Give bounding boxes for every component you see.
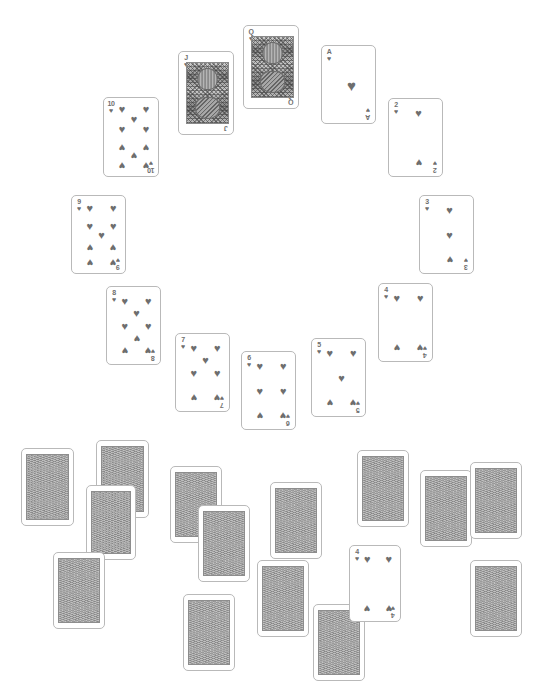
suit-heart-icon: ♥ <box>119 141 126 152</box>
fan-card-four-hearts-fan[interactable]: 4♥4♥♥♥♥♥ <box>378 283 433 362</box>
fan-card-ten-hearts[interactable]: 10♥10♥♥♥♥♥♥♥♥♥♥♥ <box>103 97 159 177</box>
suit-heart-icon: ♥ <box>446 229 453 240</box>
card-back-pattern <box>362 456 404 521</box>
suit-heart-icon: ♥ <box>110 241 117 252</box>
suit-heart-icon: ♥ <box>327 397 334 408</box>
fan-card-five-hearts[interactable]: 5♥5♥♥♥♥♥♥ <box>311 338 366 417</box>
suit-heart-icon: ♥ <box>87 221 94 232</box>
suit-heart-icon: ♥ <box>191 367 198 378</box>
suit-heart-icon: ♥ <box>327 347 334 358</box>
fan-card-three-hearts[interactable]: 3♥3♥♥♥♥ <box>419 195 474 274</box>
card-pip-area: ♥♥ <box>399 103 438 172</box>
face-down-card[interactable] <box>270 482 322 559</box>
suit-heart-icon: ♥ <box>87 241 94 252</box>
court-card-artwork <box>186 62 229 124</box>
card-pip-area: ♥♥♥♥♥ <box>322 343 361 412</box>
suit-heart-icon: ♥ <box>364 602 371 613</box>
suit-heart-icon: ♥ <box>122 295 129 306</box>
suit-heart-icon: ♥ <box>394 342 401 353</box>
card-rank-label: Q <box>285 99 297 106</box>
suit-heart-icon: ♥ <box>347 77 356 92</box>
face-down-card[interactable] <box>198 505 250 582</box>
suit-heart-icon: ♥ <box>364 554 371 565</box>
suit-heart-icon: ♥ <box>386 554 393 565</box>
suit-heart-icon: ♥ <box>417 292 424 303</box>
card-back-pattern <box>475 468 517 533</box>
court-card-artwork <box>251 36 294 98</box>
face-down-card[interactable] <box>357 450 409 527</box>
suit-heart-icon: ♥ <box>133 308 140 319</box>
suit-heart-icon: ♥ <box>87 257 94 268</box>
fan-card-two-hearts[interactable]: 2♥2♥♥♥ <box>388 98 443 177</box>
card-rank-label: J <box>180 54 192 61</box>
fan-card-ace-hearts[interactable]: A♥A♥♥ <box>321 45 376 124</box>
fan-card-eight-hearts[interactable]: 8♥8♥♥♥♥♥♥♥♥♥ <box>106 286 161 365</box>
suit-heart-icon: ♥ <box>191 342 198 353</box>
suit-heart-icon: ♥ <box>394 292 401 303</box>
suit-heart-icon: ♥ <box>214 392 221 403</box>
card-pip-area: ♥♥♥♥♥♥ <box>252 356 291 425</box>
card-pip-area: ♥♥♥♥♥♥♥♥♥ <box>82 200 121 269</box>
face-down-card[interactable] <box>470 560 522 637</box>
card-back-pattern <box>188 600 230 665</box>
suit-heart-icon: ♥ <box>386 602 393 613</box>
suit-heart-icon: ♥ <box>143 160 150 171</box>
suit-heart-icon: ♥ <box>145 320 152 331</box>
card-pip-area: ♥♥♥♥♥♥♥ <box>186 338 225 407</box>
suit-heart-icon: ♥ <box>110 221 117 232</box>
suit-heart-icon: ♥ <box>122 320 129 331</box>
face-up-card-four-hearts-loose[interactable]: 4♥4♥♥♥♥♥ <box>349 545 401 622</box>
suit-heart-icon: ♥ <box>131 113 138 124</box>
face-down-card[interactable] <box>53 552 105 629</box>
suit-heart-icon: ♥ <box>119 104 126 115</box>
suit-heart-icon: ♥ <box>143 141 150 152</box>
suit-heart-icon: ♥ <box>122 345 129 356</box>
suit-heart-icon: ♥ <box>214 367 221 378</box>
suit-heart-icon: ♥ <box>446 204 453 215</box>
face-down-card[interactable] <box>183 594 235 671</box>
face-down-card[interactable] <box>470 462 522 539</box>
suit-heart-icon: ♥ <box>257 410 264 421</box>
card-back-pattern <box>58 558 100 623</box>
fan-card-jack-hearts[interactable]: J♥J♥ <box>178 51 234 135</box>
suit-heart-icon: ♥ <box>415 157 422 168</box>
suit-heart-icon: ♥ <box>280 385 287 396</box>
card-back-pattern <box>475 566 517 631</box>
suit-heart-icon: ♥ <box>119 160 126 171</box>
card-back-pattern <box>275 488 317 553</box>
suit-heart-icon: ♥ <box>280 360 287 371</box>
fan-card-seven-hearts[interactable]: 7♥7♥♥♥♥♥♥♥♥ <box>175 333 230 412</box>
card-pip-area: ♥♥♥♥♥♥♥♥ <box>117 291 156 360</box>
suit-heart-icon: ♥ <box>191 392 198 403</box>
suit-heart-icon: ♥ <box>202 355 209 366</box>
card-back-pattern <box>262 566 304 631</box>
fan-card-queen-hearts[interactable]: Q♥Q♥ <box>243 25 299 109</box>
face-down-card[interactable] <box>86 485 136 560</box>
card-back-pattern <box>26 454 69 520</box>
suit-heart-icon: ♥ <box>415 107 422 118</box>
suit-heart-icon: ♥ <box>145 345 152 356</box>
suit-heart-icon: ♥ <box>131 150 138 161</box>
card-back-pattern <box>91 491 131 554</box>
face-down-card[interactable] <box>420 470 472 547</box>
suit-heart-icon: ♥ <box>257 385 264 396</box>
suit-heart-icon: ♥ <box>110 257 117 268</box>
suit-heart-icon: ♥ <box>145 295 152 306</box>
card-pip-area: ♥♥♥ <box>430 200 469 269</box>
fan-card-six-hearts[interactable]: 6♥6♥♥♥♥♥♥♥ <box>241 351 296 430</box>
fan-card-nine-hearts[interactable]: 9♥9♥♥♥♥♥♥♥♥♥♥ <box>71 195 126 274</box>
suit-heart-icon: ♥ <box>350 347 357 358</box>
suit-heart-icon: ♥ <box>446 254 453 265</box>
card-rank-label: J <box>220 125 232 132</box>
card-pip-area: ♥ <box>332 50 371 119</box>
card-pip-area: ♥♥♥♥♥♥♥♥♥♥ <box>114 102 154 172</box>
card-table: 4♥4♥♥♥♥♥10♥10♥♥♥♥♥♥♥♥♥♥♥J♥J♥Q♥Q♥A♥A♥♥2♥2… <box>0 0 538 694</box>
face-down-card[interactable] <box>257 560 309 637</box>
suit-heart-icon: ♥ <box>143 123 150 134</box>
card-back-pattern <box>425 476 467 541</box>
suit-heart-icon: ♥ <box>87 203 94 214</box>
card-rank-label: Q <box>245 28 257 35</box>
face-down-card[interactable] <box>21 448 74 526</box>
suit-heart-icon: ♥ <box>350 397 357 408</box>
suit-heart-icon: ♥ <box>417 342 424 353</box>
